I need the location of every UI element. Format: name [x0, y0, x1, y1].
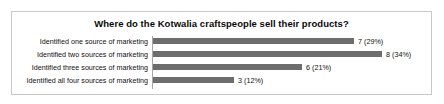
bar-track: 6 (21%): [153, 61, 431, 74]
bar-value-label: 3 (12%): [238, 74, 263, 87]
bar-value-label: 7 (29%): [358, 35, 383, 48]
category-label: Identified three sources of marketing: [12, 61, 148, 74]
bar-value-label: 8 (34%): [386, 48, 411, 61]
bar-row: Identified all four sources of marketing…: [12, 74, 431, 87]
bar-row: Identified two sources of marketing 8 (3…: [12, 48, 431, 61]
bar: [153, 51, 382, 57]
bar-row: Identified three sources of marketing 6 …: [12, 61, 431, 74]
bar-value-label: 6 (21%): [306, 61, 331, 74]
bar: [153, 77, 234, 83]
bar-track: 3 (12%): [153, 74, 431, 87]
bar-track: 8 (34%): [153, 48, 431, 61]
category-label: Identified two sources of marketing: [12, 48, 148, 61]
category-label: Identified one source of marketing: [12, 35, 148, 48]
bar-row: Identified one source of marketing 7 (29…: [12, 35, 431, 48]
bar: [153, 38, 354, 44]
category-label: Identified all four sources of marketing: [12, 74, 148, 87]
plot-area: Identified one source of marketing 7 (29…: [12, 35, 431, 94]
chart-container: Where do the Kotwalia craftspeople sell …: [11, 11, 432, 95]
bar: [153, 64, 302, 70]
bar-track: 7 (29%): [153, 35, 431, 48]
chart-title: Where do the Kotwalia craftspeople sell …: [12, 18, 431, 29]
